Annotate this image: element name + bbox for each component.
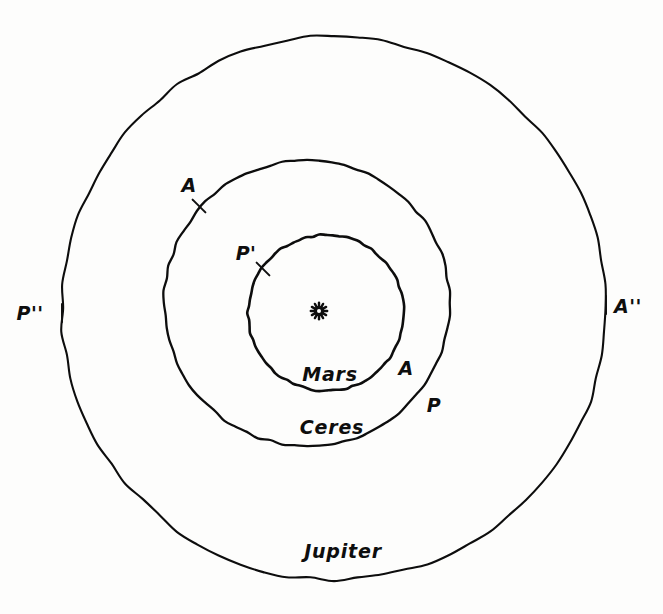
apsis-label-ceres-aphelion: A <box>179 174 196 196</box>
apsis-label-jupiter-perihelion: P'' <box>16 302 43 324</box>
apsis-label-mars-perihelion: P' <box>236 242 257 264</box>
apsis-label-mars-aphelion: A <box>396 357 413 379</box>
orbit-label-mars: Mars <box>302 363 358 385</box>
paper-background <box>0 0 663 614</box>
sun-center-hole <box>317 309 321 313</box>
orbit-diagram-figure: MarsCeresJupiterAP'PAP''A'' <box>0 0 663 614</box>
apsis-label-ceres-perihelion: P <box>427 394 441 416</box>
orbit-diagram-svg: MarsCeresJupiterAP'PAP''A'' <box>0 0 663 614</box>
apsis-label-jupiter-aphelion: A'' <box>612 295 642 317</box>
orbit-label-jupiter: Jupiter <box>300 540 382 562</box>
orbit-label-ceres: Ceres <box>300 416 364 438</box>
